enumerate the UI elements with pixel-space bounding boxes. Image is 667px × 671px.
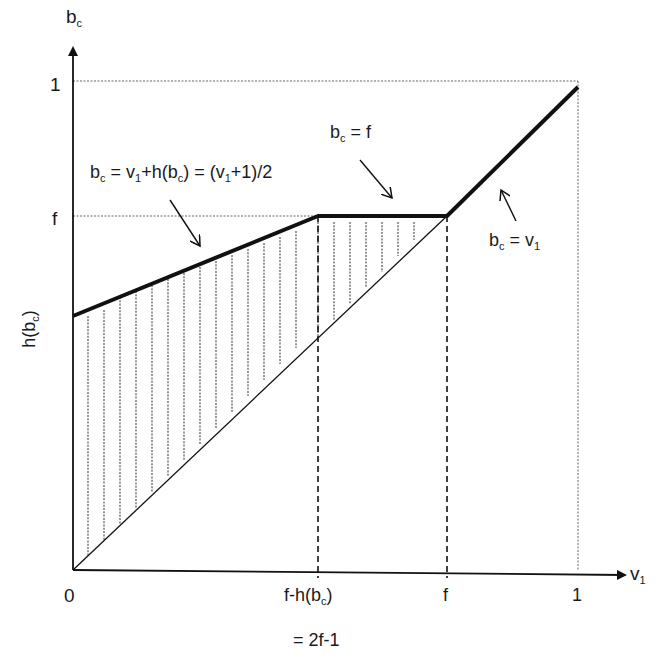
x-tick-one: 1 — [572, 585, 582, 606]
annotation-flat: bc = f — [330, 122, 371, 144]
arrow-diag — [501, 190, 516, 221]
x-tick-fh-equals: = 2f-1 — [293, 630, 340, 651]
x-axis-label: v1 — [630, 563, 646, 586]
x-tick-fh: f-h(bc) — [284, 585, 333, 607]
y-tick-f: f — [52, 208, 57, 230]
y-axis-label: bc — [66, 6, 82, 29]
x-tick-f: f — [443, 585, 448, 606]
x-tick-zero: 0 — [64, 585, 75, 607]
hatch-region — [88, 222, 414, 556]
annotation-rising: bc = v1+h(bc) = (v1+1)/2 — [90, 162, 272, 184]
y-tick-one: 1 — [50, 74, 61, 96]
x-axis — [73, 570, 625, 575]
diagram-canvas — [0, 0, 667, 671]
dashed-verticals — [318, 216, 447, 578]
bid-curve — [73, 87, 578, 316]
arrow-rising — [170, 200, 200, 246]
arrow-flat — [360, 160, 392, 198]
guide-lines — [73, 81, 578, 570]
annotation-diag: bc = v1 — [489, 230, 540, 252]
diagonal-line — [73, 216, 447, 570]
h-bc-label: h(bc) — [19, 301, 41, 357]
